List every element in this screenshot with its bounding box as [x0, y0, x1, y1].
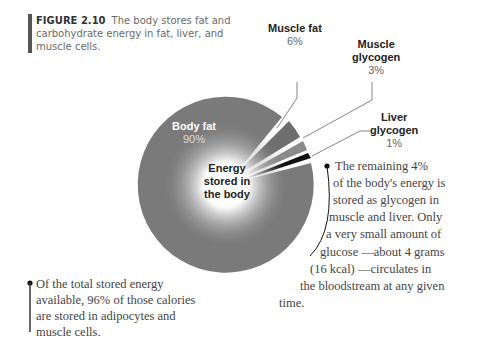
label-muscle-fat: Muscle fat6% [268, 22, 322, 48]
label-body-fat: Body fat90% [172, 120, 216, 146]
center-label: Energystored inthe body [198, 162, 256, 201]
label-liver-glycogen: Liverglycogen1% [370, 111, 418, 150]
label-muscle-glycogen: Muscleglycogen3% [352, 38, 400, 77]
note-left: Of the total stored energyavailable, 96%… [36, 276, 296, 340]
